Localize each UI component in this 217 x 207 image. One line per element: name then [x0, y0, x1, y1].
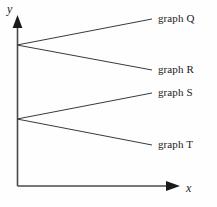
line-graph-q [17, 19, 152, 45]
y-axis-arrowhead [13, 15, 23, 28]
plot-area [0, 0, 217, 207]
x-axis-arrowhead [166, 181, 180, 191]
y-axis-label: y [7, 3, 12, 15]
series-label-graph-t: graph T [158, 139, 193, 150]
series-label-graph-r: graph R [158, 64, 194, 75]
line-graph-s [17, 93, 152, 119]
series-label-graph-s: graph S [158, 87, 193, 98]
x-axis-label: x [186, 182, 191, 194]
series-label-graph-q: graph Q [158, 13, 194, 24]
line-graph-r [17, 45, 152, 70]
line-graph-t [17, 119, 152, 145]
graph-figure: y x graph Q graph R graph S graph T [0, 0, 217, 207]
